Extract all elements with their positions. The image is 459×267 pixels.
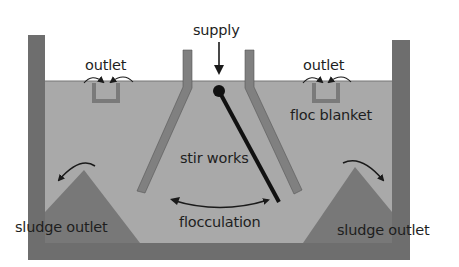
supply-arrow	[214, 42, 224, 75]
outlet-right-label: outlet	[303, 58, 344, 73]
flocculation-label: flocculation	[179, 215, 260, 230]
clarifier-diagram: supply outlet outlet floc blanket stir w…	[0, 0, 459, 267]
outlet-left-label: outlet	[85, 58, 126, 73]
sludge-outlet-right-label: sludge outlet	[337, 223, 430, 238]
stirrer-pivot	[213, 85, 225, 97]
sludge-outlet-left-label: sludge outlet	[15, 220, 108, 235]
stir-works-label: stir works	[180, 151, 248, 166]
supply-label: supply	[193, 23, 240, 38]
tank-floor	[28, 243, 410, 260]
floc-blanket-label: floc blanket	[290, 108, 372, 123]
